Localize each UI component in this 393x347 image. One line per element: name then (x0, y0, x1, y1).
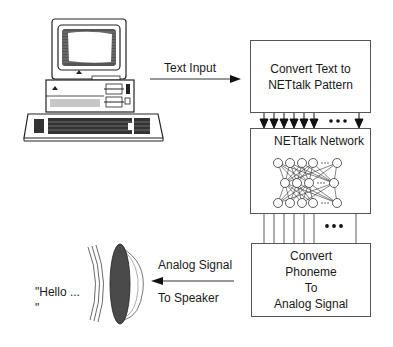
output-speech-line1: "Hello ... (35, 286, 80, 298)
output-speech-line2: " (35, 302, 39, 314)
